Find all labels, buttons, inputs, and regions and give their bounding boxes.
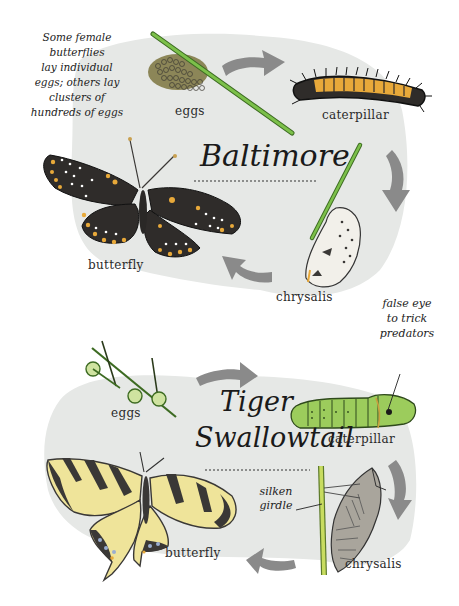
baltimore-label-caterpillar: caterpillar (322, 108, 389, 122)
swallowtail-label-caterpillar: caterpillar (328, 432, 395, 446)
baltimore-label-butterfly: butterfly (88, 258, 144, 272)
silken-girdle-note: silken girdle (254, 485, 298, 513)
swallowtail-label-eggs: eggs (111, 406, 141, 420)
baltimore-label-eggs: eggs (175, 104, 205, 118)
baltimore-label-chrysalis: chrysalis (276, 290, 333, 304)
false-eye-note: false eye to trick predators (362, 296, 452, 341)
swallowtail-title-line1: Tiger (220, 386, 293, 417)
swallowtail-label-butterfly: butterfly (165, 546, 221, 560)
baltimore-egg-note: Some female butterflies lay individual e… (18, 30, 136, 120)
baltimore-title: Baltimore (200, 138, 350, 173)
swallowtail-label-chrysalis: chrysalis (345, 557, 402, 571)
